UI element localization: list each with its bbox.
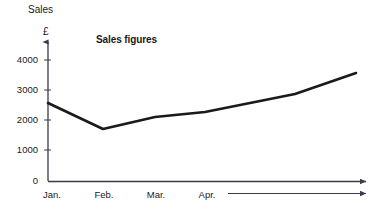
sales-line-series [48, 73, 356, 129]
chart-figure: Sales £ Sales figures 4000 3000 2000 100… [0, 0, 378, 210]
plot-area [0, 0, 378, 210]
